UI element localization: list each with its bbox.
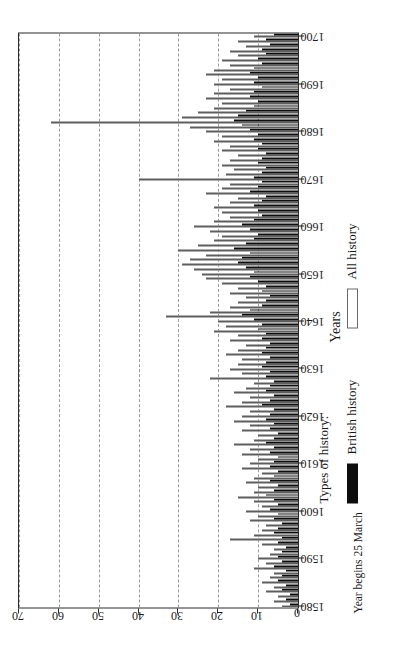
bar-british-history xyxy=(270,384,298,386)
legend-label-all-history: All history xyxy=(344,223,360,279)
bar-british-history xyxy=(250,275,298,277)
bar-british-history xyxy=(274,33,298,35)
bar-british-history xyxy=(258,328,298,330)
bar-british-history xyxy=(270,294,298,296)
bar-british-history xyxy=(262,290,298,292)
y-tick-label: 40 xyxy=(130,609,145,653)
bar-british-history xyxy=(258,233,298,235)
bar-british-history xyxy=(262,143,298,145)
bar-british-history xyxy=(286,584,298,586)
bar-british-history xyxy=(266,332,298,334)
bar-british-history xyxy=(270,451,298,453)
bar-british-history xyxy=(274,498,298,500)
y-tick-label: 70 xyxy=(11,609,26,653)
bar-british-history xyxy=(266,52,298,54)
bar-british-history xyxy=(270,479,298,481)
x-tick-label: 1690 xyxy=(305,72,320,96)
bar-british-history xyxy=(262,86,298,88)
bar-british-history xyxy=(274,394,298,396)
bar-british-history xyxy=(262,365,298,367)
bar-british-history xyxy=(254,271,298,273)
bar-british-history xyxy=(262,171,298,173)
bar-british-history xyxy=(258,133,298,135)
bar-british-history xyxy=(242,223,298,225)
bar-british-history xyxy=(234,247,298,249)
bar-british-history xyxy=(278,503,298,505)
bar-british-history xyxy=(254,218,298,220)
rotated-figure-wrapper: Occurrences of titles Years Year begins … xyxy=(0,0,394,653)
bar-british-history xyxy=(258,57,298,59)
bar-british-history xyxy=(278,579,298,581)
bar-british-history xyxy=(254,90,298,92)
bar-british-history xyxy=(270,342,298,344)
bar-british-history xyxy=(270,508,298,510)
gridline xyxy=(139,33,140,607)
bar-british-history xyxy=(266,389,298,391)
gridline xyxy=(99,33,100,607)
bar-british-history xyxy=(262,157,298,159)
bar-british-history xyxy=(266,418,298,420)
bar-british-history xyxy=(278,484,298,486)
bar-british-history xyxy=(282,522,298,524)
bar-british-history xyxy=(270,43,298,45)
gridline xyxy=(59,33,60,607)
bar-british-history xyxy=(266,38,298,40)
bar-british-history xyxy=(278,513,298,515)
bar-british-history xyxy=(278,555,298,557)
bar-british-history xyxy=(258,209,298,211)
bar-british-history xyxy=(238,261,298,263)
bar-british-history xyxy=(262,323,298,325)
y-tick-label: 30 xyxy=(170,609,185,653)
bar-british-history xyxy=(254,138,298,140)
bar-british-history xyxy=(262,214,298,216)
bar-british-history xyxy=(266,441,298,443)
bar-british-history xyxy=(282,560,298,562)
bar-british-history xyxy=(286,546,298,548)
x-axis-note: Year begins 25 March xyxy=(352,512,364,613)
y-tick-label: 10 xyxy=(250,609,265,653)
bar-british-history xyxy=(250,71,298,73)
bar-british-history xyxy=(262,304,298,306)
bar-british-history xyxy=(278,527,298,529)
x-tick-label: 1680 xyxy=(305,119,320,143)
bar-british-history xyxy=(258,185,298,187)
bar-british-history xyxy=(270,356,298,358)
y-tick-label: 50 xyxy=(90,609,105,653)
bar-british-history xyxy=(266,346,298,348)
legend-swatch-all-history xyxy=(347,288,358,328)
bar-british-history xyxy=(262,351,298,353)
bar-british-history xyxy=(250,228,298,230)
bar-british-history xyxy=(270,370,298,372)
bar-british-history xyxy=(286,598,298,600)
bar-british-history xyxy=(250,252,298,254)
bar-british-history xyxy=(242,256,298,258)
bar-british-history xyxy=(254,176,298,178)
legend-label-british-history: British history xyxy=(344,379,360,454)
bar-british-history xyxy=(290,593,298,595)
bar-british-history xyxy=(282,574,298,576)
bar-british-history xyxy=(242,124,298,126)
y-tick-label: 20 xyxy=(210,609,225,653)
bar-british-history xyxy=(274,408,298,410)
bar-british-history xyxy=(274,460,298,462)
legend-title: Types of history: xyxy=(316,415,332,503)
bar-british-history xyxy=(250,309,298,311)
bar-british-history xyxy=(234,119,298,121)
bar-british-history xyxy=(262,337,298,339)
bar-british-history xyxy=(242,313,298,315)
bar-british-history xyxy=(274,517,298,519)
bar-british-history xyxy=(266,285,298,287)
bar-british-history xyxy=(274,446,298,448)
bar-british-history xyxy=(274,532,298,534)
bar-british-history xyxy=(274,565,298,567)
bar-british-history xyxy=(258,161,298,163)
bar-british-history xyxy=(274,437,298,439)
bar-british-history xyxy=(266,494,298,496)
bar-british-history xyxy=(274,380,298,382)
bar-british-history xyxy=(266,299,298,301)
bar-british-history xyxy=(254,204,298,206)
bar-british-history xyxy=(258,147,298,149)
bar-british-history xyxy=(286,569,298,571)
bar-british-history xyxy=(246,242,298,244)
bar-british-history xyxy=(262,180,298,182)
